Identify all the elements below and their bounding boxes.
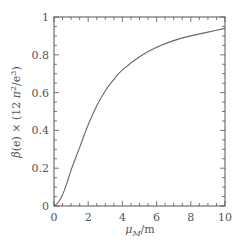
y-tick-label: 0.4 bbox=[32, 124, 50, 137]
y-tick-label: 0 bbox=[42, 200, 49, 213]
x-axis-label: μM/m bbox=[125, 223, 155, 238]
y-tick-label: 0.6 bbox=[32, 87, 50, 100]
plot-frame bbox=[54, 17, 225, 206]
axis-ticks bbox=[54, 17, 225, 206]
y-tick-labels: 00.20.40.60.81 bbox=[32, 11, 50, 213]
x-tick-label: 8 bbox=[187, 211, 194, 224]
y-axis-label: β(e) × (12 π2/e3) bbox=[9, 66, 23, 158]
y-tick-label: 0.2 bbox=[32, 162, 50, 175]
x-tick-label: 0 bbox=[51, 211, 58, 224]
data-curve bbox=[54, 28, 225, 206]
y-tick-label: 0.8 bbox=[32, 49, 50, 62]
x-tick-label: 10 bbox=[218, 211, 232, 224]
x-tick-label: 2 bbox=[85, 211, 92, 224]
chart: 0246810 00.20.40.60.81 μM/m β(e) × (12 π… bbox=[0, 0, 240, 245]
y-tick-label: 1 bbox=[42, 11, 49, 24]
